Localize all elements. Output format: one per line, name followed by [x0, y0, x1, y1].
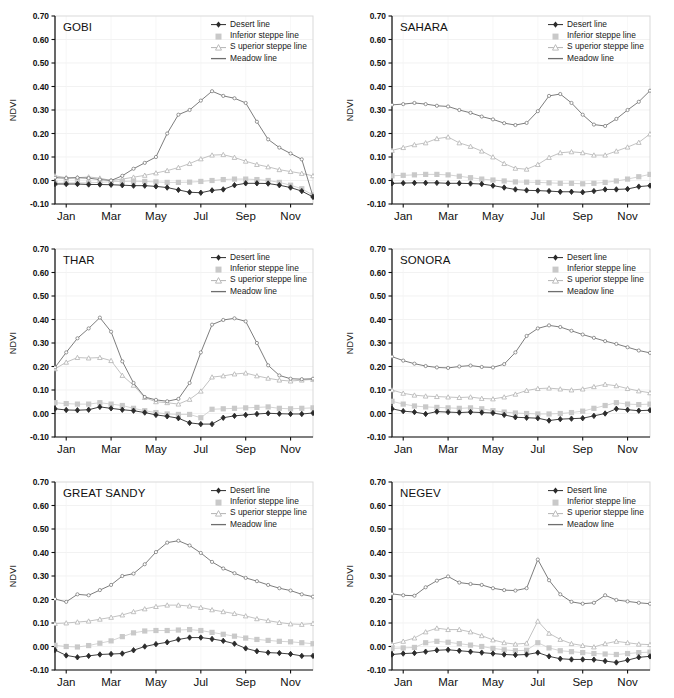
data-point — [222, 94, 225, 97]
data-point — [625, 176, 630, 181]
legend-item-desert[interactable]: Desert line — [547, 19, 644, 30]
legend-item-meadow[interactable]: Meadow line — [547, 286, 644, 297]
data-point — [98, 316, 101, 319]
data-point — [514, 351, 517, 354]
data-point — [254, 637, 259, 642]
data-point — [98, 589, 101, 592]
x-tick-label: Jan — [394, 676, 413, 688]
x-tick-label: Sep — [235, 676, 255, 688]
data-point — [188, 381, 191, 384]
data-point — [176, 180, 181, 185]
y-tick-label: 0.60 — [370, 268, 387, 278]
data-point — [525, 334, 528, 337]
data-point — [536, 327, 539, 330]
legend-item-inferior[interactable]: Inferior steppe line — [210, 496, 307, 507]
data-point — [177, 113, 180, 116]
legend-item-desert[interactable]: Desert line — [547, 485, 644, 496]
data-point — [525, 587, 528, 590]
x-tick-label: May — [482, 210, 504, 222]
x-tick-label: Mar — [101, 443, 121, 455]
data-point — [434, 639, 439, 644]
data-point — [592, 601, 595, 604]
data-point — [143, 161, 146, 164]
legend-item-meadow[interactable]: Meadow line — [547, 519, 644, 530]
data-point — [87, 327, 90, 330]
legend-item-desert[interactable]: Desert line — [547, 252, 644, 263]
data-point — [503, 589, 506, 592]
data-point — [558, 411, 563, 416]
y-tick-label: 0.10 — [370, 385, 387, 395]
legend-item-inferior[interactable]: Inferior steppe line — [547, 263, 644, 274]
y-tick-label: 0.40 — [33, 82, 50, 92]
data-point — [591, 406, 596, 411]
legend-item-desert[interactable]: Desert line — [210, 19, 307, 30]
legend-item-meadow[interactable]: Meadow line — [210, 53, 307, 64]
legend-swatch-line-icon — [547, 53, 564, 64]
data-point — [255, 120, 258, 123]
data-point — [109, 583, 112, 586]
y-tick-label: 0.60 — [370, 35, 387, 45]
data-point — [591, 181, 596, 186]
legend-swatch-square-icon — [210, 497, 227, 508]
data-point — [458, 365, 461, 368]
legend-item-inferior[interactable]: Inferior steppe line — [210, 30, 307, 41]
data-point — [166, 132, 169, 135]
legend-item-superior[interactable]: S uperior steppe line — [210, 42, 307, 53]
data-point — [390, 103, 393, 106]
data-point — [626, 600, 629, 603]
data-point — [636, 174, 641, 179]
y-axis-label: NDVI — [345, 332, 355, 354]
y-tick-label: 0.50 — [370, 58, 387, 68]
x-tick-label: Sep — [572, 676, 592, 688]
data-point — [108, 638, 113, 643]
data-point — [547, 324, 550, 327]
x-tick-label: May — [145, 676, 167, 688]
data-point — [570, 101, 573, 104]
legend-item-desert[interactable]: Desert line — [210, 252, 307, 263]
data-point — [402, 594, 405, 597]
legend-item-inferior[interactable]: Inferior steppe line — [547, 496, 644, 507]
legend-item-superior[interactable]: S uperior steppe line — [547, 508, 644, 519]
y-tick-label: 0.40 — [370, 315, 387, 325]
legend-item-meadow[interactable]: Meadow line — [210, 519, 307, 530]
data-point — [580, 650, 585, 655]
legend-swatch-line-icon — [210, 286, 227, 297]
data-point — [289, 152, 292, 155]
data-point — [222, 567, 225, 570]
legend-item-inferior[interactable]: Inferior steppe line — [547, 30, 644, 41]
x-tick-label: Nov — [617, 443, 638, 455]
data-point — [604, 124, 607, 127]
panel-title: NEGEV — [400, 487, 441, 499]
data-point — [401, 402, 406, 407]
legend-item-superior[interactable]: S uperior steppe line — [547, 275, 644, 286]
legend-item-superior[interactable]: S uperior steppe line — [547, 42, 644, 53]
legend-swatch-diamond-icon — [210, 252, 227, 263]
x-tick-label: May — [482, 443, 504, 455]
data-point — [491, 366, 494, 369]
data-point — [457, 174, 462, 179]
legend-item-superior[interactable]: S uperior steppe line — [210, 275, 307, 286]
y-axis-label: NDVI — [8, 332, 18, 354]
data-point — [222, 318, 225, 321]
legend-item-superior[interactable]: S uperior steppe line — [210, 508, 307, 519]
legend-item-inferior[interactable]: Inferior steppe line — [210, 263, 307, 274]
data-point — [547, 94, 550, 97]
x-tick-label: Mar — [438, 676, 458, 688]
legend-item-meadow[interactable]: Meadow line — [547, 53, 644, 64]
data-point — [604, 340, 607, 343]
data-point — [278, 374, 281, 377]
legend-item-meadow[interactable]: Meadow line — [210, 286, 307, 297]
data-point — [570, 329, 573, 332]
data-point — [536, 110, 539, 113]
data-point — [637, 100, 640, 103]
data-point — [581, 333, 584, 336]
data-point — [244, 101, 247, 104]
x-tick-label: Mar — [101, 676, 121, 688]
legend-item-desert[interactable]: Desert line — [210, 485, 307, 496]
data-point — [153, 628, 158, 633]
data-point — [177, 397, 180, 400]
y-tick-label: 0.60 — [33, 35, 50, 45]
legend-swatch-line-icon — [210, 53, 227, 64]
legend-swatch-triangle-icon — [547, 275, 564, 286]
data-point — [413, 594, 416, 597]
